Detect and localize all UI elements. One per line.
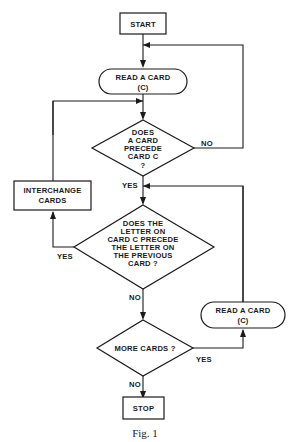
decision-1-line: CARD C — [128, 152, 159, 161]
decision-3-yes-label: YES — [196, 355, 212, 364]
decision-2-line: CARD ? — [128, 259, 158, 268]
decision-card-precede: DOES A CARD PRECEDE CARD C ? — [92, 120, 194, 176]
interchange-cards-node: INTERCHANGE CARDS — [14, 181, 91, 210]
interchange-line1: INTERCHANGE — [24, 186, 82, 195]
arrow-up-icon — [240, 329, 246, 337]
figure-caption: Fig. 1 — [132, 427, 158, 439]
arrow-down-icon — [140, 112, 146, 120]
decision-letter-precede: DOES THE LETTER ON CARD C PRECEDE THE LE… — [74, 205, 214, 289]
arrow-down-icon — [140, 197, 146, 205]
arrow-up-icon — [50, 211, 56, 219]
read-card-2-line2: (C) — [237, 316, 248, 325]
arrow-left-icon — [143, 42, 150, 48]
arrow-down-icon — [140, 60, 146, 68]
interchange-line2: CARDS — [38, 196, 66, 205]
start-label: START — [130, 20, 156, 29]
start-node: START — [120, 13, 166, 34]
arrow-right-icon — [136, 98, 143, 104]
decision-1-yes-label: YES — [122, 181, 138, 190]
decision-3-label: MORE CARDS ? — [114, 344, 175, 353]
flowchart: START READ A CARD (C) DOES A CARD PRECED… — [0, 0, 297, 442]
arrow-down-icon — [140, 312, 146, 320]
decision-2-yes-label: YES — [57, 252, 73, 261]
read-card-1-line1: READ A CARD — [116, 73, 171, 82]
read-card-node-1: READ A CARD (C) — [99, 69, 187, 94]
decision-2-no-label: NO — [129, 293, 141, 302]
decision-1-no-label: NO — [201, 139, 213, 148]
arrow-left-icon — [143, 183, 150, 189]
stop-label: STOP — [133, 404, 154, 413]
read-card-2-line1: READ A CARD — [216, 306, 271, 315]
decision-1-line: ? — [141, 161, 146, 170]
read-card-1-line2: (C) — [137, 83, 148, 92]
read-card-node-2: READ A CARD (C) — [201, 302, 285, 328]
decision-3-no-label: NO — [129, 380, 141, 389]
stop-node: STOP — [123, 397, 164, 419]
decision-more-cards: MORE CARDS ? — [97, 320, 193, 376]
